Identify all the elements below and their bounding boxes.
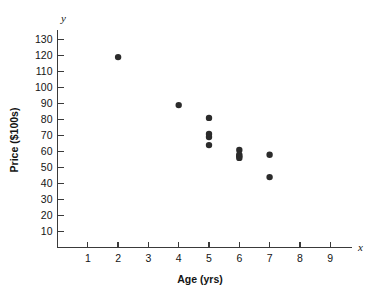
axes-group xyxy=(58,30,353,248)
y-tick-label: 120 xyxy=(35,49,53,61)
data-point xyxy=(115,54,121,60)
x-tick-label: 8 xyxy=(297,252,303,264)
y-tick-label: 30 xyxy=(41,193,53,205)
x-tick-label: 2 xyxy=(115,252,121,264)
data-point xyxy=(206,115,212,121)
y-tick-label: 10 xyxy=(41,225,53,237)
data-point xyxy=(266,174,272,180)
x-axis-title: Age (yrs) xyxy=(177,273,223,285)
plot-canvas: 102030405060708090100110120130 123456789… xyxy=(0,0,386,293)
x-tick-label: 3 xyxy=(145,252,151,264)
x-axis-ticks: 123456789 xyxy=(85,242,333,264)
y-tick-label: 130 xyxy=(35,33,53,45)
x-axis-variable-label: x xyxy=(357,241,363,253)
y-tick-label: 20 xyxy=(41,209,53,221)
x-tick-label: 6 xyxy=(236,252,242,264)
y-tick-label: 40 xyxy=(41,177,53,189)
y-tick-label: 90 xyxy=(41,97,53,109)
y-tick-label: 100 xyxy=(35,81,53,93)
data-points-group xyxy=(115,54,273,180)
y-tick-label: 110 xyxy=(36,65,53,77)
y-axis-ticks: 102030405060708090100110120130 xyxy=(35,33,64,237)
y-tick-label: 50 xyxy=(41,161,53,173)
y-tick-label: 70 xyxy=(41,129,53,141)
data-point xyxy=(266,152,272,158)
x-tick-label: 7 xyxy=(267,252,273,264)
data-point xyxy=(236,155,242,161)
y-axis-variable-label: y xyxy=(60,12,66,24)
data-point xyxy=(206,142,212,148)
x-tick-label: 4 xyxy=(176,252,182,264)
x-tick-label: 9 xyxy=(327,252,333,264)
x-tick-label: 1 xyxy=(85,252,91,264)
y-tick-label: 60 xyxy=(41,145,53,157)
x-tick-label: 5 xyxy=(206,252,212,264)
data-point xyxy=(176,102,182,108)
y-axis-title: Price ($100s) xyxy=(8,108,20,173)
data-point xyxy=(206,134,212,140)
y-tick-label: 80 xyxy=(41,113,53,125)
scatter-plot-figure: 102030405060708090100110120130 123456789… xyxy=(0,0,386,293)
